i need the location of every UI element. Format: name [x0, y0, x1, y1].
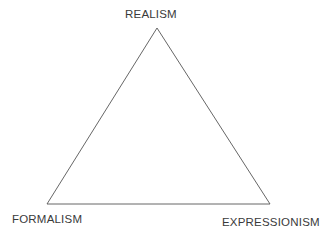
triangle-shape — [0, 0, 335, 240]
label-expressionism: EXPRESSIONISM — [222, 216, 320, 228]
triangle-outline — [47, 28, 270, 204]
label-realism: REALISM — [125, 8, 177, 20]
triangle-diagram: REALISM FORMALISM EXPRESSIONISM — [0, 0, 335, 240]
label-formalism: FORMALISM — [12, 213, 82, 225]
